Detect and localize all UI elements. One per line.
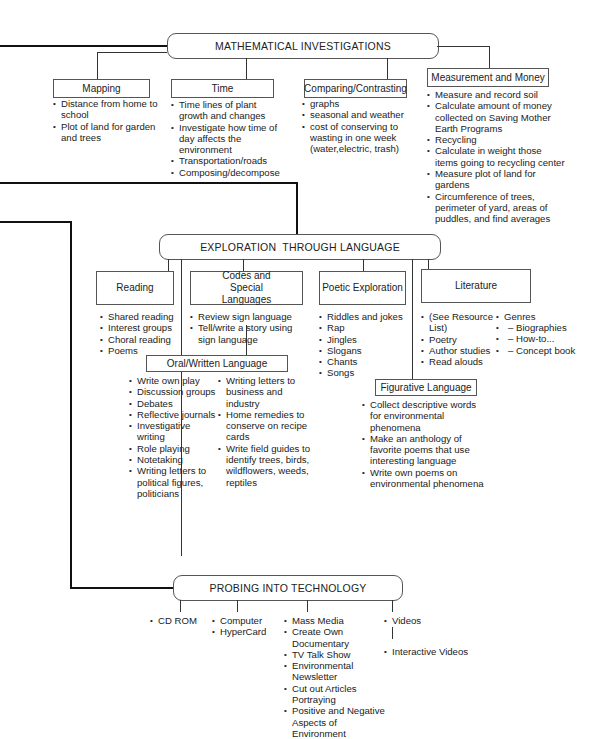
literature-list: (See Resource List) Poetry Author studie…: [421, 311, 496, 367]
oral-written-list-a: Write own play Discussion groups Debates…: [129, 375, 219, 499]
list-item: TV Talk Show: [284, 649, 399, 660]
list-item: Home remedies to conserve on recipe card…: [218, 409, 318, 443]
language-connector: [412, 259, 413, 379]
tech-list-cdrom: CD ROM: [150, 615, 210, 626]
oral-written-label: Oral/Written Language: [167, 358, 267, 370]
math-root-node: MATHEMATICAL INVESTIGATIONS: [167, 33, 439, 59]
list-item: graphs: [302, 98, 412, 109]
comparing-node: Comparing/Contrasting: [304, 79, 407, 98]
math-title: MATHEMATICAL INVESTIGATIONS: [215, 40, 391, 52]
list-item: Notetaking: [129, 454, 219, 465]
list-item: Slogans: [319, 345, 409, 356]
list-item: Rap: [319, 322, 409, 333]
tech-list-computer: Computer HyperCard: [212, 615, 282, 638]
list-item: HyperCard: [212, 626, 282, 637]
spine-to-language-h: [0, 182, 297, 184]
list-item: Calculate in weight those items going to…: [427, 145, 567, 168]
list-item: Writing letters to business and industry: [218, 375, 318, 409]
list-item: Genres: [496, 311, 596, 322]
list-item: CD ROM: [150, 615, 210, 626]
list-item: Recycling: [427, 134, 567, 145]
tech-list-interactive: Interactive Videos: [384, 646, 484, 657]
list-item: Songs: [319, 367, 409, 378]
list-item: Choral reading: [100, 334, 180, 345]
genres-label: Genres: [504, 311, 535, 322]
list-item: Computer: [212, 615, 282, 626]
tech-connector: [392, 600, 393, 612]
mapping-node: Mapping: [53, 79, 150, 98]
poetic-label: Poetic Exploration: [322, 282, 403, 294]
reading-list: Shared reading Interest groups Choral re…: [100, 311, 180, 356]
list-item: Role playing: [129, 443, 219, 454]
time-node: Time: [171, 79, 274, 98]
genre-item: Biographies: [516, 322, 567, 333]
list-item: Write field guides to identify trees, bi…: [218, 443, 318, 488]
list-item: Read alouds: [421, 356, 496, 367]
spine-to-language-v: [296, 182, 298, 234]
oral-written-node: Oral/Written Language: [146, 355, 288, 372]
list-item: Poetry: [421, 334, 496, 345]
oral-written-list-b: Writing letters to business and industry…: [218, 375, 318, 488]
list-item: Measure and record soil: [427, 89, 567, 100]
comparing-label: Comparing/Contrasting: [304, 83, 407, 95]
list-item: cost of conserving to wasting in one wee…: [302, 121, 412, 155]
list-item: Riddles and jokes: [319, 311, 409, 322]
literature-node: Literature: [421, 269, 531, 303]
list-item: Investigate how time of day affects the …: [171, 122, 286, 156]
list-item: Videos: [384, 615, 474, 626]
reading-node: Reading: [96, 271, 174, 305]
list-item: Chants: [319, 356, 409, 367]
spine-to-tech-h1: [0, 221, 71, 223]
list-item: Transportation/roads: [171, 155, 286, 166]
list-item: Investigative writing: [129, 420, 219, 443]
list-item: Cut out Articles Portraying: [284, 683, 399, 706]
list-item: Shared reading: [100, 311, 180, 322]
list-item: Debates: [129, 398, 219, 409]
codes-list: Review sign language Tell/write a story …: [190, 311, 300, 345]
genre-item: Concept book: [516, 345, 575, 356]
tech-title: PROBING INTO TECHNOLOGY: [209, 582, 366, 594]
tech-connector: [237, 600, 238, 612]
codes-label: Codes and Special Languages: [191, 270, 302, 306]
list-item: Interactive Videos: [384, 646, 484, 657]
list-item: seasonal and weather: [302, 109, 412, 120]
spine-to-tech-v: [70, 221, 72, 589]
genre-item: How-to...: [516, 333, 554, 344]
list-item: Environmental Newsletter: [284, 660, 362, 683]
list-item: Calculate amount of money collected on S…: [427, 100, 567, 134]
tech-list-videos: Videos: [384, 615, 474, 626]
list-item: Create Own Documentary: [284, 626, 352, 649]
list-item: Author studies: [421, 345, 496, 356]
math-connector: [387, 58, 388, 80]
mapping-label: Mapping: [82, 83, 120, 95]
reading-label: Reading: [116, 282, 153, 294]
measurement-node: Measurement and Money: [427, 68, 549, 87]
list-item: (See Resource List): [421, 311, 496, 334]
list-item: – Concept book: [496, 345, 596, 356]
list-item: Review sign language: [190, 311, 300, 322]
codes-node: Codes and Special Languages: [190, 271, 303, 305]
list-item: Jingles: [319, 334, 409, 345]
math-connector: [437, 46, 489, 47]
list-item: Positive and Negative Aspects of Environ…: [284, 705, 392, 739]
genres-list: Genres: [496, 311, 596, 322]
mapping-list: Distance from home to school Plot of lan…: [53, 98, 158, 143]
math-connector: [489, 46, 490, 68]
figurative-list: Collect descriptive words for environmen…: [362, 399, 487, 489]
list-item: Composing/decompose: [171, 167, 286, 178]
figurative-label: Figurative Language: [380, 382, 471, 394]
list-item: Plot of land for garden and trees: [53, 121, 158, 144]
list-item: Measure plot of land for gardens: [427, 168, 567, 191]
list-item: Discussion groups: [129, 386, 219, 397]
language-root-node: EXPLORATION THROUGH LANGUAGE: [159, 234, 441, 260]
spine-to-math: [0, 45, 168, 47]
poetic-node: Poetic Exploration: [319, 271, 406, 305]
list-item: Collect descriptive words for environmen…: [362, 399, 487, 433]
list-item: Write own play: [129, 375, 219, 386]
literature-label: Literature: [455, 280, 497, 292]
list-item: – How-to...: [496, 333, 596, 344]
list-item: Interest groups: [100, 322, 180, 333]
spine-to-tech-h2: [70, 587, 174, 589]
tech-connector: [180, 600, 181, 612]
list-item: Tell/write a story using sign language: [190, 322, 300, 345]
